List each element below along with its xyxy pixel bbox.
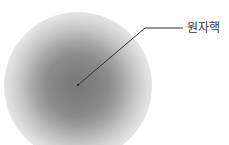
nucleus-label: 원자핵 bbox=[187, 20, 220, 36]
nucleus-point bbox=[77, 84, 79, 86]
